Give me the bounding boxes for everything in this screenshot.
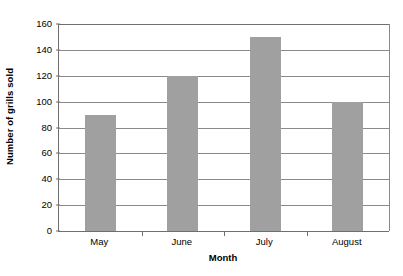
bar-august[interactable] <box>332 102 363 231</box>
y-axis-tick-label: 20 <box>41 200 52 210</box>
x-axis-tick-label-june: June <box>141 236 224 247</box>
y-axis-tick-label: 140 <box>36 45 52 55</box>
y-axis-tick-label: 80 <box>41 123 52 133</box>
bars-group <box>59 24 389 231</box>
y-axis-tick-label: 0 <box>47 226 52 236</box>
y-axis-tick-label: 100 <box>36 97 52 107</box>
bar-slot <box>224 24 307 231</box>
y-axis-title: Number of grills sold <box>0 0 20 232</box>
y-axis-tick-label: 160 <box>36 19 52 29</box>
bar-chart: Number of grills sold 020406080100120140… <box>0 0 403 276</box>
x-axis-tick-labels: MayJuneJulyAugust <box>58 236 388 247</box>
x-axis-title: Month <box>58 252 388 263</box>
bar-may[interactable] <box>85 115 116 231</box>
bar-july[interactable] <box>250 37 281 231</box>
bar-slot <box>307 24 390 231</box>
y-axis-tick-label: 60 <box>41 149 52 159</box>
y-axis-tick-labels: 020406080100120140160 <box>20 24 56 231</box>
y-axis-tick-label: 40 <box>41 175 52 185</box>
bar-slot <box>142 24 225 231</box>
y-axis-tick-label: 120 <box>36 71 52 81</box>
plot-area <box>58 24 389 232</box>
bar-slot <box>59 24 142 231</box>
bar-june[interactable] <box>167 76 198 231</box>
x-axis-tick-label-july: July <box>223 236 306 247</box>
x-axis-tick-label-may: May <box>58 236 141 247</box>
y-axis-title-label: Number of grills sold <box>5 67 16 164</box>
plot-right-border <box>389 24 390 231</box>
x-axis-tick-label-august: August <box>306 236 389 247</box>
